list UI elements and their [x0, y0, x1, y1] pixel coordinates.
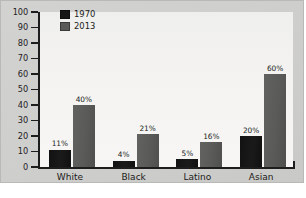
y-axis-tick: [31, 42, 38, 43]
y-axis-tick: [31, 166, 38, 167]
y-axis-tick-label: 80: [1, 39, 28, 47]
bar-latino-1970: [176, 159, 198, 167]
x-axis-label-asian: Asian: [229, 173, 293, 182]
bar-chart-figure: 1009080706050403020100 1970 2013 11%40%4…: [0, 0, 306, 198]
chart-outer-mount: 1009080706050403020100 1970 2013 11%40%4…: [0, 0, 304, 183]
bar-white-2013: [73, 105, 95, 167]
y-axis-tick-label: 20: [1, 132, 28, 140]
x-axis-end-tick: [293, 161, 295, 168]
bar-value-label-white-2013: 40%: [69, 96, 99, 103]
y-axis-tick-label: 90: [1, 23, 28, 31]
bar-value-label-latino-1970: 5%: [172, 150, 202, 157]
y-axis-tick-label: 10: [1, 147, 28, 155]
y-axis-tick: [31, 120, 38, 121]
x-axis-label-black: Black: [102, 173, 166, 182]
bar-value-label-latino-2013: 16%: [196, 133, 226, 140]
bar-black-1970: [113, 161, 135, 167]
x-axis-label-latino: Latino: [166, 173, 230, 182]
y-axis-tick: [31, 104, 38, 105]
bar-value-label-asian-2013: 60%: [260, 65, 290, 72]
bar-asian-2013: [264, 74, 286, 167]
x-axis-line: [38, 167, 295, 169]
bar-value-label-white-1970: 11%: [45, 140, 75, 147]
bar-latino-2013: [200, 142, 222, 167]
y-axis-tick: [31, 58, 38, 59]
bar-black-2013: [137, 134, 159, 167]
bar-asian-1970: [240, 136, 262, 167]
y-axis-tick-label: 40: [1, 101, 28, 109]
y-axis-tick: [31, 27, 38, 28]
x-axis-label-white: White: [38, 173, 102, 182]
y-axis-tick-label: 0: [1, 163, 28, 171]
bars-layer: 11%40%4%21%5%16%20%60%: [38, 12, 293, 167]
bar-value-label-black-1970: 4%: [109, 151, 139, 158]
y-axis-tick-label: 60: [1, 70, 28, 78]
bar-value-label-black-2013: 21%: [133, 125, 163, 132]
y-axis-tick-label: 70: [1, 54, 28, 62]
bar-value-label-asian-1970: 20%: [236, 127, 266, 134]
y-axis-tick: [31, 151, 38, 152]
y-axis-tick: [31, 89, 38, 90]
y-axis-tick: [31, 11, 38, 12]
y-axis-tick: [31, 73, 38, 74]
bar-white-1970: [49, 150, 71, 167]
y-axis-tick: [31, 135, 38, 136]
y-axis-tick-label: 50: [1, 85, 28, 93]
y-axis-tick-label: 100: [1, 8, 28, 16]
y-axis-tick-label: 30: [1, 116, 28, 124]
